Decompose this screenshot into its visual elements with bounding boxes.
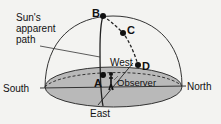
observer-label: Observer: [117, 77, 156, 88]
point-a-label: A: [94, 77, 102, 89]
caption-pointer: [40, 46, 100, 57]
caption-line-1: Sun's: [16, 12, 41, 23]
point-d-dot: [135, 62, 141, 68]
point-b-dot: [100, 13, 106, 19]
direction-south: South: [3, 83, 29, 94]
direction-north: North: [187, 81, 211, 92]
caption-line-3: path: [16, 34, 35, 45]
celestial-sphere-diagram: B C D A Sun's apparent path South North …: [0, 0, 221, 124]
point-c-label: C: [127, 24, 135, 36]
point-c-dot: [120, 30, 126, 36]
direction-west: West: [110, 57, 133, 68]
point-d-label: D: [142, 60, 150, 72]
point-b-label: B: [92, 7, 100, 19]
direction-east: East: [90, 108, 110, 119]
caption-line-2: apparent: [16, 23, 56, 34]
